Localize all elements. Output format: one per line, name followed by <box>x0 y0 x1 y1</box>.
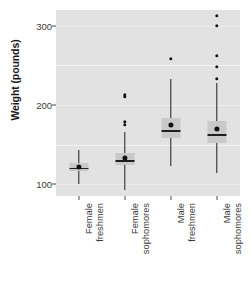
y-tick-mark <box>52 184 56 185</box>
x-tick-label-line: freshmen <box>95 203 106 281</box>
outlier-point <box>123 123 126 126</box>
x-tick-mark <box>217 196 218 200</box>
outlier-point <box>215 14 218 17</box>
plot-panel <box>56 10 240 196</box>
y-tick-mark <box>52 104 56 105</box>
x-tick-label-line: Male <box>222 203 232 223</box>
median-line <box>162 130 181 132</box>
x-tick-label-line: Male <box>176 203 186 223</box>
x-tick-label-female-freshmen: Femalefreshmen <box>84 203 105 281</box>
x-tick-label-line: sophomores <box>233 203 244 281</box>
x-tick-label-female-sophomores: Femalesophomores <box>130 203 151 281</box>
boxplot-group[interactable] <box>148 10 194 196</box>
outlier-point <box>215 77 218 80</box>
outlier-point <box>215 65 218 68</box>
outlier-point <box>215 24 218 27</box>
x-tick-label-line: sophomores <box>141 203 152 281</box>
x-tick-label-line: freshmen <box>187 203 198 281</box>
outlier-point <box>123 95 126 98</box>
y-tick-label-200: 200 <box>22 99 52 110</box>
box-iqr <box>208 121 227 143</box>
x-tick-label-line: Female <box>130 203 140 234</box>
boxplot-group[interactable] <box>102 10 148 196</box>
y-axis-tick-labels: 100200300 <box>20 0 52 286</box>
boxplot-group[interactable] <box>56 10 102 196</box>
x-tick-label-male-freshmen: Malefreshmen <box>176 203 197 281</box>
median-line <box>116 160 135 162</box>
y-tick-mark <box>52 25 56 26</box>
x-tick-label-line: Female <box>84 203 94 234</box>
outlier-point <box>169 57 172 60</box>
x-tick-mark <box>171 196 172 200</box>
x-tick-mark <box>125 196 126 200</box>
median-line <box>208 134 227 136</box>
boxplot-figure: Weight (pounds) 100200300 Femalefreshmen… <box>0 0 251 286</box>
x-tick-label-male-sophomores: Malesophomores <box>222 203 243 281</box>
x-tick-mark <box>79 196 80 200</box>
y-tick-label-100: 100 <box>22 179 52 190</box>
outlier-point <box>215 54 218 57</box>
y-tick-label-300: 300 <box>22 20 52 31</box>
boxplot-group[interactable] <box>194 10 240 196</box>
